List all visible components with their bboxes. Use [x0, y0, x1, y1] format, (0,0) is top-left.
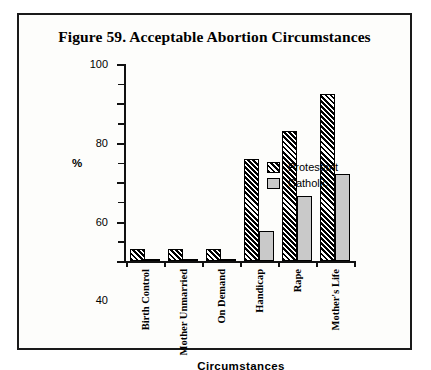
legend-swatch-protestant — [267, 162, 280, 173]
x-tick — [126, 261, 128, 267]
y-tick-major: 0 — [117, 261, 124, 263]
x-label-cell: On Demand — [202, 269, 240, 347]
x-label-cell: Handicap — [240, 269, 278, 347]
legend-item[interactable]: Protestant — [267, 161, 338, 173]
x-tick-label: Handicap — [254, 269, 265, 313]
x-tick-label: Rape — [292, 269, 303, 292]
x-axis-labels: Birth ControlMother UnmarriedOn DemandHa… — [126, 269, 354, 347]
y-tick-label: 40 — [96, 294, 108, 306]
y-tick-major: 100 — [117, 64, 124, 66]
bar-protestant[interactable] — [130, 249, 145, 261]
y-tick-major: 80 — [117, 103, 124, 105]
bar-group — [126, 64, 164, 261]
bar-protestant[interactable] — [282, 131, 297, 261]
bar-catholic[interactable] — [297, 196, 312, 261]
y-tick-minor — [118, 84, 124, 86]
x-tick — [278, 261, 280, 267]
y-axis-title: % — [72, 157, 82, 169]
y-tick-major: 40 — [117, 182, 124, 184]
y-tick-minor — [118, 163, 124, 165]
x-tick — [164, 261, 166, 267]
figure-title: Figure 59. Acceptable Abortion Circumsta… — [19, 28, 410, 46]
x-ticks — [124, 261, 355, 267]
bar-protestant[interactable] — [168, 249, 183, 261]
x-tick-label: On Demand — [216, 269, 227, 324]
x-tick — [240, 261, 242, 267]
x-label-cell: Rape — [278, 269, 316, 347]
x-tick-label: Mother Unmarried — [178, 269, 189, 355]
x-tick-label: Birth Control — [140, 269, 151, 330]
legend-label: Catholic — [288, 177, 328, 189]
x-label-cell: Mother's Life — [316, 269, 354, 347]
legend-swatch-catholic — [267, 178, 280, 189]
x-tick-label: Mother's Life — [330, 269, 341, 331]
bar-protestant[interactable] — [206, 249, 221, 261]
bar-catholic[interactable] — [259, 231, 274, 261]
plot-area: % 020406080100 Birth ControlMother Unmar… — [124, 64, 353, 261]
x-tick — [202, 261, 204, 267]
y-tick-major: 20 — [117, 222, 124, 224]
legend-label: Protestant — [288, 161, 338, 173]
y-tick-label: 60 — [96, 216, 108, 228]
x-label-cell: Mother Unmarried — [164, 269, 202, 347]
y-tick-label: 100 — [90, 58, 108, 70]
x-axis-title: Circumstances — [124, 360, 358, 370]
bar-group — [202, 64, 240, 261]
bar-protestant[interactable] — [244, 159, 259, 261]
x-label-cell: Birth Control — [126, 269, 164, 347]
y-tick-minor — [118, 202, 124, 204]
figure-frame: Figure 59. Acceptable Abortion Circumsta… — [17, 13, 412, 350]
y-tick-minor — [118, 241, 124, 243]
chart-legend: ProtestantCatholic — [267, 161, 338, 189]
legend-item[interactable]: Catholic — [267, 177, 338, 189]
bar-group — [164, 64, 202, 261]
y-tick-major: 60 — [117, 143, 124, 145]
x-tick — [316, 261, 318, 267]
y-tick-label: 80 — [96, 137, 108, 149]
y-tick-minor — [118, 123, 124, 125]
x-tick — [354, 261, 356, 267]
